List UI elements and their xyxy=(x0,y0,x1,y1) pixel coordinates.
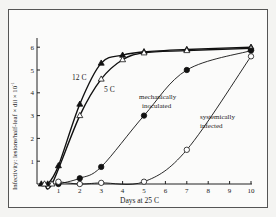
filled-circle-marker xyxy=(77,176,82,181)
x-ticks: 12345678910 xyxy=(57,181,255,195)
filled-triangle-marker xyxy=(77,101,83,106)
open-circle-marker xyxy=(184,147,189,152)
open-circle-marker xyxy=(99,180,104,185)
y-axis-label: Infectivity: lesions/half-leaf × dil × 1… xyxy=(10,82,18,190)
y-tick-label: 3 xyxy=(31,112,35,120)
x-tick-label: 5 xyxy=(142,187,146,195)
filled-circle-marker xyxy=(184,67,189,72)
x-tick-label: 2 xyxy=(78,187,82,195)
x-tick-label: 7 xyxy=(185,187,189,195)
annotation-infected: infected xyxy=(200,122,223,130)
annotation-mechanically: mechanically xyxy=(139,93,177,101)
filled-circle-marker xyxy=(248,48,253,53)
x-tick-label: 4 xyxy=(121,187,125,195)
y-tick-label: 2 xyxy=(31,135,35,143)
annotation-inoculated: inoculated xyxy=(142,102,172,110)
x-tick-label: 6 xyxy=(164,187,168,195)
open-circle-marker xyxy=(248,54,253,59)
x-tick-label: 1 xyxy=(57,187,61,195)
x-tick-label: 9 xyxy=(228,187,232,195)
open-circle-marker xyxy=(77,181,82,186)
annotation-systemically: systemically xyxy=(200,113,235,121)
y-tick-label: 1 xyxy=(31,158,35,166)
open-circle-marker xyxy=(141,179,146,184)
chart-svg: 12345678910 123456 12 C 5 C mechanically… xyxy=(0,0,276,217)
x-tick-label: 3 xyxy=(99,187,103,195)
y-ticks: 123456 xyxy=(31,44,41,166)
filled-circle-marker xyxy=(141,113,146,118)
x-tick-label: 10 xyxy=(248,187,256,195)
y-tick-label: 4 xyxy=(31,89,35,97)
annotation-5c: 5 C xyxy=(104,85,115,94)
y-tick-label: 5 xyxy=(31,67,35,75)
open-circle-marker xyxy=(56,179,61,184)
open-triangle-marker xyxy=(77,112,83,117)
annotation-12c: 12 C xyxy=(72,73,86,82)
filled-circle-marker xyxy=(99,164,104,169)
x-tick-label: 8 xyxy=(206,187,210,195)
y-tick-label: 6 xyxy=(31,44,35,52)
x-axis-label: Days at 25 C xyxy=(120,196,159,205)
